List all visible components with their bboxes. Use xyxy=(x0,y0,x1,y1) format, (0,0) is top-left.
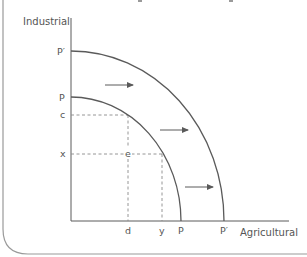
y-tick-p-prime: P′ xyxy=(57,46,65,57)
y-tick-c: c xyxy=(60,109,65,120)
dashed-guides xyxy=(71,115,162,221)
cut-off-title-fragments xyxy=(138,0,233,2)
x-tick-d: d xyxy=(125,225,131,236)
y-axis-label: Industrial xyxy=(23,16,70,27)
shift-arrows xyxy=(105,85,213,187)
ppf-diagram: Industrial Agricultural P′ P c x d y P P… xyxy=(0,0,307,257)
ppf-curve-p-prime xyxy=(71,51,224,221)
x-axis-label: Agricultural xyxy=(240,227,298,238)
x-tick-p-prime: P′ xyxy=(220,225,228,236)
x-tick-y: y xyxy=(159,225,165,236)
point-e-label: e xyxy=(125,148,131,159)
y-tick-p: P xyxy=(59,92,65,103)
x-tick-p: P xyxy=(178,225,184,236)
frame-border xyxy=(3,0,307,254)
y-tick-x: x xyxy=(60,148,66,159)
ppf-curve-p xyxy=(71,97,181,221)
